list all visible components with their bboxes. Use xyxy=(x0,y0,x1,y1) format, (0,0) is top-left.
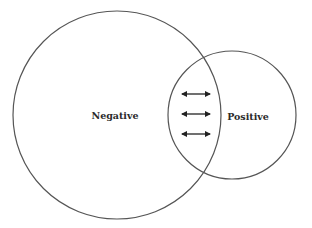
negative-label: Negative xyxy=(91,110,138,121)
venn-diagram: Negative Positive xyxy=(0,0,312,228)
positive-label: Positive xyxy=(227,111,269,122)
